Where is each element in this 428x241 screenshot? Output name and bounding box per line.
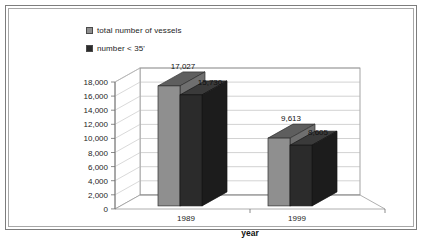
y-tick-4000: 4,000 bbox=[88, 177, 109, 186]
y-tick-6000: 6,000 bbox=[88, 163, 109, 172]
y-tick-10000: 10,000 bbox=[84, 134, 109, 143]
y-tick-2000: 2,000 bbox=[88, 191, 109, 200]
x-axis-title: year bbox=[241, 228, 259, 238]
data-label-1989-under35: 15,730 bbox=[198, 78, 223, 87]
floor bbox=[115, 195, 385, 209]
y-axis bbox=[111, 82, 115, 209]
y-tick-labels: 18,000 16,000 14,000 12,000 10,000 8,000… bbox=[84, 78, 109, 214]
bar-1989-number-under-35[interactable] bbox=[180, 81, 227, 206]
y-tick-14000: 14,000 bbox=[84, 106, 109, 115]
data-label-1999-total: 9,613 bbox=[281, 114, 302, 123]
y-tick-12000: 12,000 bbox=[84, 120, 109, 129]
y-tick-16000: 16,000 bbox=[84, 92, 109, 101]
x-tick-1989: 1989 bbox=[177, 214, 195, 223]
data-label-1999-under35: 8,605 bbox=[308, 128, 329, 137]
chart-plot-area: 18,000 16,000 14,000 12,000 10,000 8,000… bbox=[0, 0, 428, 241]
bar-1999-number-under-35[interactable] bbox=[290, 131, 337, 206]
chart-figure: total number of vessels number < 35' bbox=[0, 0, 428, 241]
y-tick-18000: 18,000 bbox=[84, 78, 109, 87]
x-tick-1999: 1999 bbox=[288, 214, 306, 223]
y-tick-8000: 8,000 bbox=[88, 149, 109, 158]
x-axis: 1989 1999 bbox=[177, 209, 385, 223]
data-label-1989-total: 17,027 bbox=[171, 62, 196, 71]
y-tick-0: 0 bbox=[104, 205, 109, 214]
